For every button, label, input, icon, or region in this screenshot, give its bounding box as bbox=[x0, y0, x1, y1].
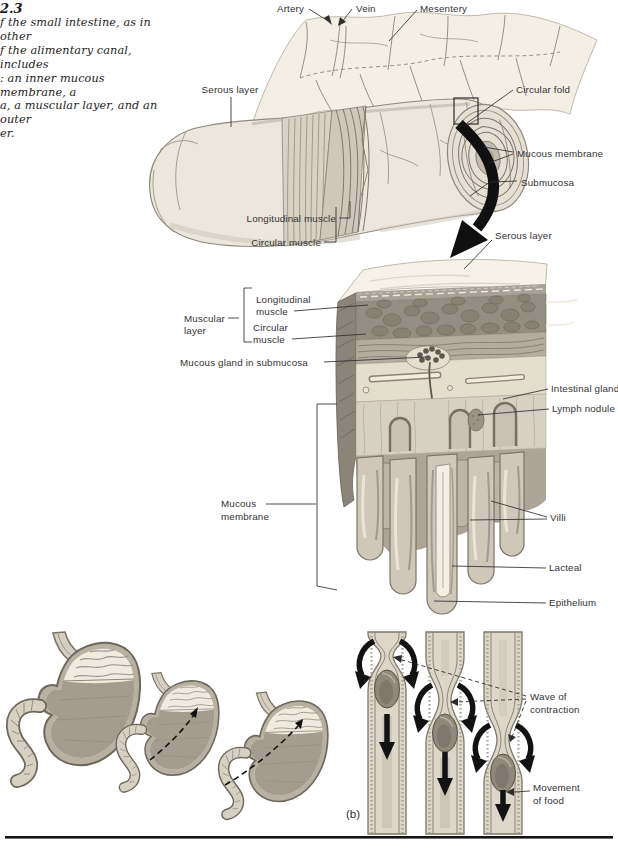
peristalsis-tubes-illustration: Wave of contraction Movement of food (b) bbox=[346, 632, 580, 834]
label-movement-of-food: of food bbox=[533, 795, 564, 806]
intestinal-gland-loop bbox=[390, 418, 410, 452]
label-lymph-nodule: Lymph nodule bbox=[552, 403, 615, 414]
stomach-stage-3 bbox=[222, 692, 328, 814]
label-serous-layer: Serous layer bbox=[202, 84, 259, 95]
label-epithelium: Epithelium bbox=[549, 597, 596, 608]
magnified-wall-block: Serous layer Longitudinal muscle Muscula… bbox=[180, 230, 618, 614]
mucosa-band bbox=[356, 394, 546, 456]
anatomy-figure-svg: Artery Vein Mesentery Serous layer Circu… bbox=[0, 0, 618, 849]
textbook-page: 2.3 f the small intestine, as in other f… bbox=[0, 0, 618, 849]
label-mucous-membrane: Mucous membrane bbox=[517, 148, 604, 159]
label-vein: Vein bbox=[356, 3, 376, 14]
label-movement-of-food: Movement bbox=[533, 782, 580, 793]
label-muscular-layer: Muscular bbox=[184, 313, 226, 324]
lymph-nodule bbox=[468, 409, 484, 431]
label-lacteal: Lacteal bbox=[549, 562, 582, 573]
stomach-sequence-illustration bbox=[11, 632, 328, 814]
panel-label-b: (b) bbox=[346, 808, 360, 820]
label-villi: Villi bbox=[550, 512, 566, 523]
intestinal-gland-loop bbox=[494, 403, 516, 447]
label-mesentery: Mesentery bbox=[420, 3, 467, 14]
label-serous-layer-mag: Serous layer bbox=[495, 230, 552, 241]
label-muscular-layer: layer bbox=[184, 325, 207, 336]
label-mucous-membrane-mag: membrane bbox=[221, 511, 269, 522]
label-circular-muscle-mag: Circular bbox=[253, 322, 289, 333]
label-longitudinal-muscle: Longitudinal muscle bbox=[247, 213, 337, 224]
label-circular-muscle-mag: muscle bbox=[253, 334, 285, 345]
villi-group bbox=[356, 448, 546, 614]
peristalsis-tube-3 bbox=[471, 632, 535, 834]
label-circular-muscle: Circular muscle bbox=[251, 237, 321, 248]
label-longitudinal-muscle-mag: muscle bbox=[256, 306, 288, 317]
intestinal-gland-loop bbox=[450, 410, 470, 449]
label-artery: Artery bbox=[277, 3, 304, 14]
label-circular-fold: Circular fold bbox=[516, 84, 570, 95]
label-mucous-membrane-mag: Mucous bbox=[221, 498, 256, 509]
label-wave-of-contraction: Wave of bbox=[530, 691, 567, 702]
label-intestinal-gland: Intestinal gland bbox=[551, 383, 618, 394]
label-mucous-gland: Mucous gland in submucosa bbox=[180, 357, 308, 368]
label-wave-of-contraction: contraction bbox=[530, 704, 580, 715]
peristalsis-tube-2 bbox=[413, 632, 477, 834]
label-submucosa: Submucosa bbox=[521, 177, 574, 188]
intestine-segment-illustration: Artery Vein Mesentery Serous layer Circu… bbox=[150, 3, 604, 258]
page-bottom-rule bbox=[5, 836, 613, 839]
label-longitudinal-muscle-mag: Longitudinal bbox=[256, 294, 311, 305]
